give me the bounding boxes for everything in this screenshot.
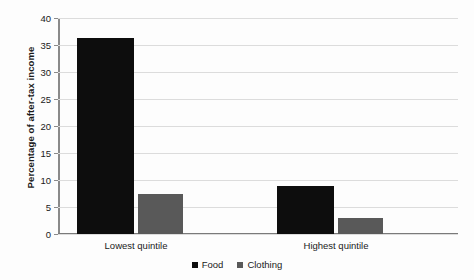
y-axis-tick-label: 35 (40, 40, 51, 51)
y-axis-tick (54, 234, 58, 235)
y-axis-tick-label: 25 (40, 94, 51, 105)
y-axis-tick (54, 126, 58, 127)
y-axis-tick (54, 180, 58, 181)
y-axis-tick (54, 207, 58, 208)
gridline (58, 234, 458, 235)
y-axis-tick-label: 10 (40, 175, 51, 186)
plot-area: 0510152025303540 (58, 18, 458, 234)
legend-label: Clothing (247, 259, 282, 270)
bar-chart: Percentage of after-tax income 051015202… (0, 0, 474, 280)
y-axis-tick-label: 30 (40, 67, 51, 78)
legend-item-food[interactable]: Food (192, 259, 224, 270)
legend-swatch-icon (237, 262, 243, 268)
y-axis-tick (54, 153, 58, 154)
y-axis-title: Percentage of after-tax income (25, 18, 36, 218)
chart-legend: FoodClothing (0, 259, 474, 270)
bar-clothing-highest (338, 218, 383, 234)
legend-label: Food (202, 259, 224, 270)
x-axis-category-label: Lowest quintile (105, 240, 168, 251)
y-axis-tick (54, 72, 58, 73)
y-axis-tick-label: 15 (40, 148, 51, 159)
y-axis-tick-label: 0 (46, 229, 51, 240)
gridline (58, 18, 458, 19)
bar-food-lowest (77, 38, 134, 234)
y-axis-tick (54, 18, 58, 19)
y-axis-tick-label: 20 (40, 121, 51, 132)
legend-swatch-icon (192, 262, 198, 268)
y-axis-tick (54, 45, 58, 46)
legend-item-clothing[interactable]: Clothing (237, 259, 282, 270)
y-axis-tick-label: 5 (46, 202, 51, 213)
x-axis-category-label: Highest quintile (304, 240, 369, 251)
y-axis-tick (54, 99, 58, 100)
y-axis-tick-label: 40 (40, 13, 51, 24)
bar-clothing-lowest (138, 194, 183, 234)
bar-food-highest (277, 186, 334, 234)
